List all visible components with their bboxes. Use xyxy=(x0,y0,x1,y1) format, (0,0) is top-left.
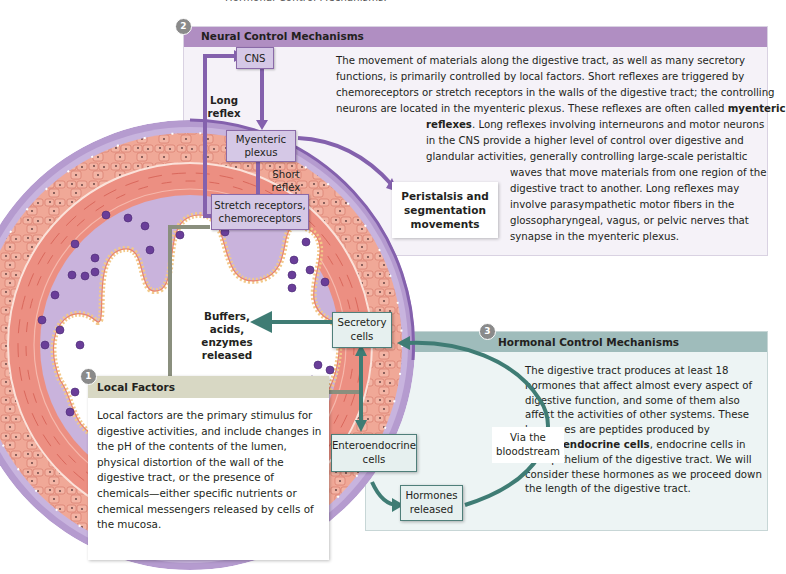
secretory-cells-box: Secretorycells xyxy=(332,312,392,348)
label-line: Myenteric xyxy=(236,134,286,145)
hormones-released-label: Hormonesreleased xyxy=(405,489,457,517)
label-line: plexus xyxy=(244,147,277,158)
label-line: Secretory xyxy=(337,317,386,328)
label-line: reflex xyxy=(272,182,301,193)
label-line: Short xyxy=(272,169,299,180)
label-line: bloodstream xyxy=(496,446,560,457)
hormones-released-box: Hormonesreleased xyxy=(400,485,463,521)
neural-text-line: synapse in the myenteric plexus. xyxy=(510,229,679,245)
neural-text-line: neurons are located in the myenteric ple… xyxy=(336,101,786,117)
neural-text-line: digestive tract to another. Long reflexe… xyxy=(510,181,739,197)
neural-text-line: The movement of materials along the dige… xyxy=(336,53,745,69)
label-line: cells xyxy=(351,331,374,342)
neural-text-line: glossopharyngeal, vagus, or pelvic nerve… xyxy=(510,213,749,229)
neural-text-line: involve parasympathetic motor fibers in … xyxy=(510,197,734,213)
local-panel-header: Local Factors xyxy=(88,376,329,398)
label-line: chemoreceptors xyxy=(219,213,302,224)
neural-text-line: glandular activities, generally controll… xyxy=(426,149,747,165)
cns-box: CNS xyxy=(236,47,274,69)
label-line: cells xyxy=(363,454,386,465)
neural-text-part: neurons are located in the myenteric ple… xyxy=(336,103,724,114)
label-line: Via the xyxy=(510,432,546,443)
label-line: Buffers, acids, xyxy=(204,310,250,335)
peristalsis-label: Peristalsis andsegmentationmovements xyxy=(401,189,488,231)
local-panel-title: Local Factors xyxy=(97,381,175,393)
secretory-cells-label: Secretorycells xyxy=(337,316,386,344)
neural-text-line: in the CNS provide a higher level of con… xyxy=(426,133,744,149)
neural-text-line: waves that move materials from one regio… xyxy=(510,165,766,181)
long-reflex-label: Longreflex xyxy=(206,94,242,120)
label-line: movements xyxy=(411,218,480,230)
step-badge-3: 3 xyxy=(479,323,496,340)
myenteric-plexus-label: Myentericplexus xyxy=(236,133,286,159)
neural-bold-term: reflexes xyxy=(426,119,472,130)
enteroendocrine-cells-label: Enteroendocrinecells xyxy=(332,439,416,467)
label-line: Long xyxy=(210,95,238,106)
neural-text-line: chemoreceptors or stretch receptors in t… xyxy=(336,85,775,101)
label-line: reflex xyxy=(208,108,241,119)
peristalsis-segmentation-box: Peristalsis andsegmentationmovements xyxy=(392,182,498,238)
label-line: Stretch receptors, xyxy=(214,200,306,211)
stretch-receptors-label: Stretch receptors,chemoreceptors xyxy=(214,199,306,225)
step-badge-2: 2 xyxy=(175,18,192,35)
label-line: segmentation xyxy=(404,204,486,216)
via-bloodstream-label: Via thebloodstream xyxy=(492,427,564,463)
stretch-receptors-box: Stretch receptors,chemoreceptors xyxy=(211,194,309,230)
label-line: Peristalsis and xyxy=(401,190,488,202)
label-line: enzymes released xyxy=(201,336,252,361)
myenteric-plexus-box: Myentericplexus xyxy=(226,130,296,162)
neural-bold-term: myenteric xyxy=(728,103,786,114)
cns-label: CNS xyxy=(244,52,265,65)
label-line: Enteroendocrine xyxy=(332,440,416,451)
local-factors-panel: Local Factors Local factors are the prim… xyxy=(88,376,329,560)
label-line: Hormones xyxy=(405,490,457,501)
neural-text-line: functions, is primarily controlled by lo… xyxy=(336,69,744,85)
neural-text-part: . Long reflexes involving interneurons a… xyxy=(472,119,764,130)
step-badge-1: 1 xyxy=(80,368,97,385)
label-line: released xyxy=(410,504,454,515)
enteroendocrine-cells-box: Enteroendocrinecells xyxy=(331,434,417,472)
buffers-acids-enzymes-label: Buffers, acids,enzymes released xyxy=(186,310,268,362)
neural-text-line: reflexes. Long reflexes involving intern… xyxy=(426,117,764,133)
short-reflex-label: Shortreflex xyxy=(266,168,306,194)
local-panel-text: Local factors are the primary stimulus f… xyxy=(97,408,325,533)
bloodstream-text: Via thebloodstream xyxy=(496,431,560,459)
